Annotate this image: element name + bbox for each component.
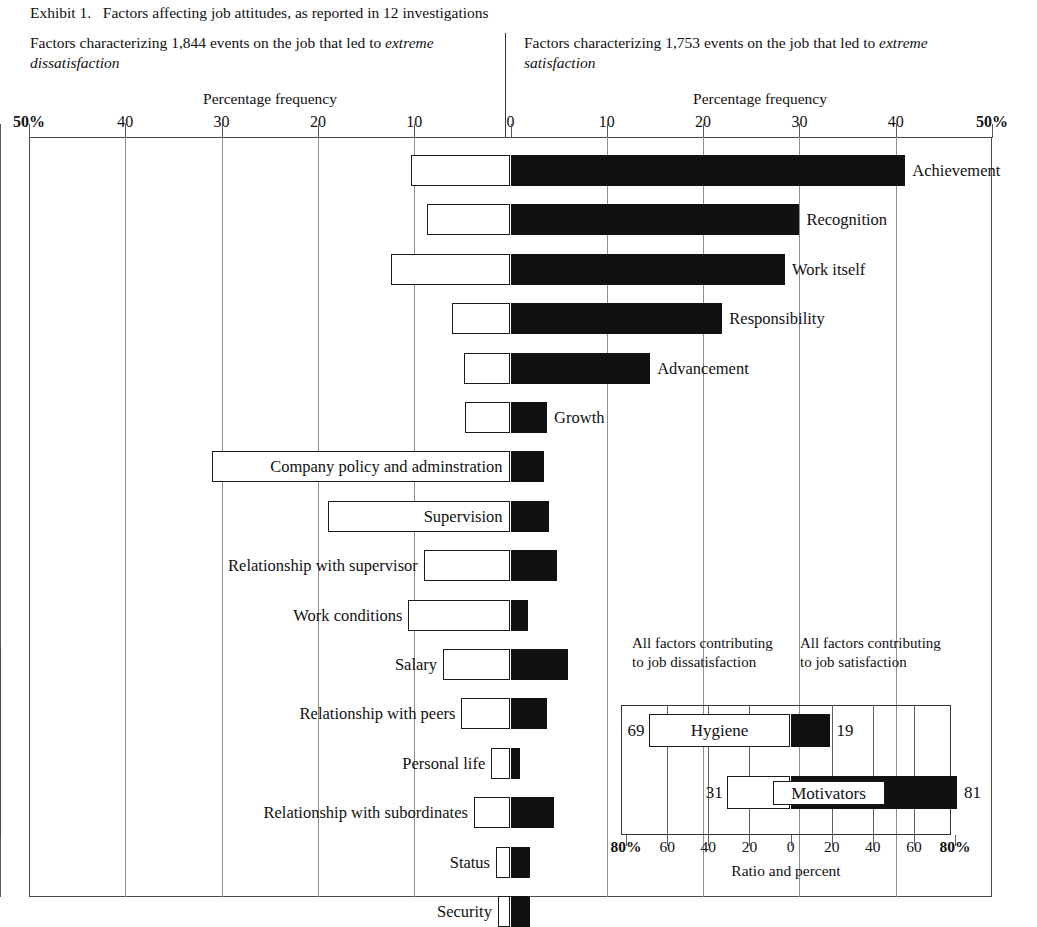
bar-row-label: Supervision — [332, 501, 503, 532]
bar-dissatisfaction — [452, 303, 511, 334]
axis-tick-mark — [29, 124, 30, 138]
inset-tick-mark — [708, 835, 709, 846]
bar-row-label: Security — [0, 896, 492, 927]
inset-category-label: Motivators — [773, 781, 885, 805]
bar-row-label: Relationship with supervisor — [0, 550, 418, 581]
inset-axis-label: Ratio and percent — [621, 862, 951, 880]
page-title: Exhibit 1. Factors affecting job attitud… — [30, 4, 489, 22]
bar-satisfaction — [511, 847, 530, 878]
inset-zero-axis — [0, 646, 1, 835]
inset-value-dissatisfaction: 69 — [605, 714, 645, 747]
bar-satisfaction — [511, 600, 528, 631]
bar-satisfaction — [511, 550, 557, 581]
inset-tick-mark — [626, 835, 627, 846]
bar-dissatisfaction — [464, 353, 510, 384]
bar-satisfaction — [511, 402, 548, 433]
axis-tick-mark — [992, 124, 993, 138]
bar-row-label: Personal life — [0, 748, 485, 779]
inset-gridline — [914, 705, 915, 835]
bar-satisfaction — [511, 204, 800, 235]
left-column-heading: Factors characterizing 1,844 events on t… — [30, 33, 500, 73]
inset-value-satisfaction: 81 — [964, 776, 1004, 809]
bar-row-label: Growth — [554, 402, 604, 433]
inset-tick-mark — [749, 835, 750, 846]
bar-satisfaction — [511, 353, 651, 384]
bar-row-label: Company policy and adminstration — [216, 451, 503, 482]
left-heading-text: Factors characterizing 1,844 events on t… — [30, 34, 381, 51]
axis-tick-mark — [799, 124, 800, 138]
inset-value-satisfaction: 19 — [837, 714, 877, 747]
bar-row-label: Recognition — [806, 204, 887, 235]
inset-right-heading: All factors contributing to job satisfac… — [800, 634, 950, 672]
bar-dissatisfaction — [498, 896, 511, 927]
bar-satisfaction — [511, 303, 723, 334]
bar-row-label: Achievement — [912, 155, 1000, 186]
bar-row-label: Work conditions — [0, 600, 402, 631]
inset-value-dissatisfaction: 31 — [683, 776, 723, 809]
inset-bar-satisfaction — [791, 714, 830, 747]
bar-satisfaction — [511, 698, 548, 729]
inset-tick-mark — [955, 835, 956, 846]
bar-satisfaction — [511, 155, 906, 186]
inset-left-heading: All factors contributing to job dissatis… — [632, 634, 782, 672]
bar-dissatisfaction — [443, 649, 510, 680]
bar-dissatisfaction — [408, 600, 510, 631]
inset-tick-mark — [873, 835, 874, 846]
bar-dissatisfaction — [427, 204, 511, 235]
axis-tick-mark — [222, 124, 223, 138]
right-column-heading: Factors characterizing 1,753 events on t… — [524, 33, 994, 73]
gridline — [125, 137, 126, 897]
bar-dissatisfaction — [474, 797, 511, 828]
inset-tick-mark — [667, 835, 668, 846]
axis-tick-mark — [318, 124, 319, 138]
bar-dissatisfaction — [496, 847, 510, 878]
bar-dissatisfaction — [391, 254, 510, 285]
axis-tick-mark — [896, 124, 897, 138]
bar-dissatisfaction — [461, 698, 510, 729]
axis-tick-mark — [703, 124, 704, 138]
left-axis-title: Percentage frequency — [120, 90, 420, 108]
bar-row-label: Relationship with subordinates — [0, 797, 468, 828]
bar-row-label: Work itself — [792, 254, 865, 285]
bar-satisfaction — [511, 451, 545, 482]
bar-dissatisfaction — [424, 550, 511, 581]
axis-tick-mark — [125, 124, 126, 138]
bar-row-label: Status — [0, 847, 490, 878]
gridline — [607, 137, 608, 897]
axis-tick-mark — [607, 124, 608, 138]
bar-satisfaction — [511, 501, 550, 532]
axis-tick-mark — [511, 124, 512, 138]
bar-row-label: Responsibility — [729, 303, 824, 334]
bar-row-label: Advancement — [657, 353, 749, 384]
bar-dissatisfaction — [491, 748, 510, 779]
gridline — [318, 137, 319, 897]
right-axis-title: Percentage frequency — [610, 90, 910, 108]
bar-row-label: Relationship with peers — [0, 698, 455, 729]
bar-dissatisfaction — [465, 402, 510, 433]
bar-satisfaction — [511, 254, 785, 285]
inset-category-label: Hygiene — [653, 719, 787, 743]
right-heading-text: Factors characterizing 1,753 events on t… — [524, 34, 875, 51]
bar-satisfaction — [511, 896, 530, 927]
bar-satisfaction — [511, 748, 521, 779]
axis-tick-mark — [414, 124, 415, 138]
bar-satisfaction — [511, 649, 569, 680]
gridline — [222, 137, 223, 897]
bar-satisfaction — [511, 797, 554, 828]
inset-tick-mark — [791, 835, 792, 846]
inset-gridline — [832, 705, 833, 835]
inset-tick-mark — [914, 835, 915, 846]
inset-tick-mark — [832, 835, 833, 846]
bar-row-label: Salary — [0, 649, 437, 680]
bar-dissatisfaction — [411, 155, 510, 186]
